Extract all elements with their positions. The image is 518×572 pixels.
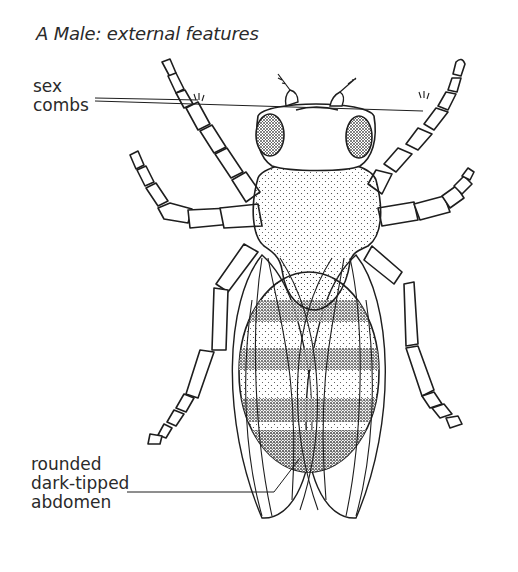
eye-left	[256, 114, 284, 156]
fly-illustration	[0, 0, 518, 572]
head	[256, 74, 375, 171]
leg-front-right	[368, 59, 465, 194]
leg-middle-right	[378, 168, 474, 226]
eye-right	[346, 116, 372, 158]
leg-front-left	[162, 59, 260, 202]
leader-line-sex-combs-right	[95, 101, 423, 111]
sex-comb-tufts	[194, 91, 429, 101]
